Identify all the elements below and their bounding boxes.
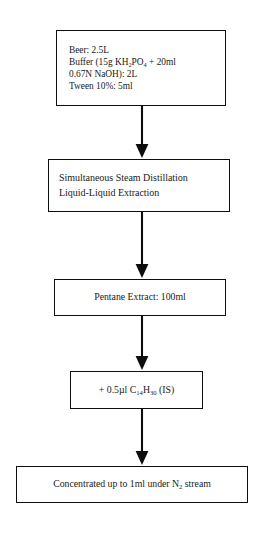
buffer-text-a: Buffer (15g KH — [69, 57, 128, 67]
node-line: Concentrated up to 1ml under N2 stream — [53, 478, 211, 491]
flow-node-pentane-extract: Pentane Extract: 100ml — [54, 279, 226, 316]
node-text-block: + 0.5µl C14H30 (IS) — [99, 384, 174, 397]
node-text-block: Simultaneous Steam Distillation Liquid-L… — [59, 171, 229, 199]
subscript-30: 30 — [150, 388, 157, 395]
node-text-block: Concentrated up to 1ml under N2 stream — [53, 478, 211, 491]
buffer-text-b: PO — [132, 57, 144, 67]
node-line: Buffer (15g KH2PO4 + 20ml — [69, 56, 225, 68]
standard-mid: H — [143, 384, 150, 395]
node-text-block: Beer: 2.5L Buffer (15g KH2PO4 + 20ml 0.6… — [69, 44, 225, 93]
node-line: Simultaneous Steam Distillation — [59, 171, 229, 185]
node-text-block: Pentane Extract: 100ml — [94, 291, 186, 304]
flow-node-distillation-extraction: Simultaneous Steam Distillation Liquid-L… — [48, 159, 230, 212]
node-line: Liquid-Liquid Extraction — [59, 186, 229, 200]
concentrate-prefix: Concentrated up to 1ml under N — [53, 478, 179, 489]
arrow-down-icon — [131, 409, 153, 466]
buffer-text-c: + 20ml — [147, 57, 176, 67]
arrow-down-icon — [131, 106, 153, 159]
subscript-14: 14 — [136, 388, 143, 395]
standard-suffix: (IS) — [157, 384, 175, 395]
node-line: Beer: 2.5L — [69, 44, 225, 56]
standard-prefix: + 0.5µl C — [99, 384, 136, 395]
node-line: Pentane Extract: 100ml — [94, 291, 186, 304]
flow-node-internal-standard: + 0.5µl C14H30 (IS) — [70, 371, 203, 409]
flowchart-diagram: Beer: 2.5L Buffer (15g KH2PO4 + 20ml 0.6… — [0, 0, 263, 535]
node-line: Tween 10%: 5ml — [69, 80, 225, 92]
flow-node-concentration: Concentrated up to 1ml under N2 stream — [16, 466, 248, 503]
node-line: + 0.5µl C14H30 (IS) — [99, 384, 174, 397]
node-line: 0.67N NaOH): 2L — [69, 68, 225, 80]
arrow-down-icon — [131, 316, 153, 371]
flow-node-sample-preparation: Beer: 2.5L Buffer (15g KH2PO4 + 20ml 0.6… — [56, 30, 226, 106]
concentrate-suffix: stream — [182, 478, 210, 489]
arrow-down-icon — [131, 212, 153, 279]
